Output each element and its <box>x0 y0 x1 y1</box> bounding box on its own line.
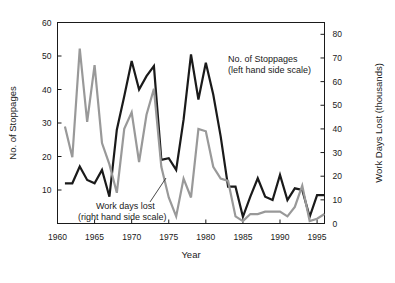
chart-container: 102030405060 01020304050607080 196019651… <box>0 0 395 283</box>
y2-tick-label: 50 <box>333 100 343 110</box>
x-tick-label: 1985 <box>233 232 252 242</box>
y2-tick-label: 30 <box>333 148 343 158</box>
workdays-annotation-line2: (right hand side scale) <box>78 212 167 222</box>
y2-tick-label: 10 <box>333 195 343 205</box>
y2-axis-tick-labels: 01020304050607080 <box>333 29 343 228</box>
y-tick-label: 10 <box>42 185 52 195</box>
y-tick-label: 50 <box>42 51 52 61</box>
y-tick-label: 40 <box>42 85 52 95</box>
x-tick-label: 1990 <box>271 232 290 242</box>
y2-tick-label: 20 <box>333 171 343 181</box>
y-tick-label: 30 <box>42 118 52 128</box>
x-tick-label: 1970 <box>122 232 141 242</box>
y2-tick-label: 60 <box>333 77 343 87</box>
y-axis-title: No. of Stoppages <box>7 86 18 160</box>
x-tick-label: 1960 <box>48 232 67 242</box>
x-axis-title: Year <box>181 249 200 260</box>
stoppages-annotation-line2: (left hand side scale) <box>228 65 311 75</box>
line-chart: 102030405060 01020304050607080 196019651… <box>0 0 395 283</box>
x-tick-label: 1980 <box>196 232 215 242</box>
x-tick-label: 1965 <box>85 232 104 242</box>
stoppages-annotation-line1: No. of Stoppages <box>228 54 298 64</box>
y-tick-label: 60 <box>42 18 52 28</box>
y2-tick-label: 40 <box>333 124 343 134</box>
y2-tick-label: 80 <box>333 29 343 39</box>
y2-tick-label: 70 <box>333 53 343 63</box>
y-tick-label: 20 <box>42 152 52 162</box>
y2-tick-label: 0 <box>333 219 338 229</box>
x-tick-label: 1995 <box>308 232 327 242</box>
x-tick-label: 1975 <box>159 232 178 242</box>
workdays-annotation-line1: Work days lost <box>96 201 155 211</box>
y2-axis-title: Work Days Lost (thousands) <box>373 63 384 183</box>
